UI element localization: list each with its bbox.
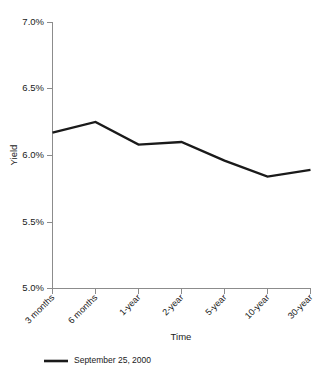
x-tick-label: 1-year [117,292,142,317]
y-tick-label: 6.5% [22,82,44,93]
plot-series-group [53,122,311,177]
y-tick-marks [47,23,53,289]
y-tick-label: 5.0% [22,282,44,293]
y-axis-title: Yield [8,145,19,166]
y-tick-labels: 7.0% 6.5% 6.0% 5.5% 5.0% [22,16,44,293]
x-tick-label: 10-year [243,292,272,321]
y-tick-label: 6.0% [22,149,44,160]
x-tick-labels: 3 months 6 months 1-year 2-year 5-year 1… [23,292,314,326]
y-tick-label: 7.0% [22,16,44,27]
legend: September 25, 2000 [44,355,151,365]
x-tick-label: 5-year [203,292,228,317]
y-axis: 7.0% 6.5% 6.0% 5.5% 5.0% Yield [8,16,53,293]
x-axis: 3 months 6 months 1-year 2-year 5-year 1… [23,289,314,343]
series-line-september-25-2000 [53,122,311,177]
x-axis-title: Time [171,331,192,342]
x-tick-label: 30-year [286,292,315,321]
x-tick-label: 3 months [23,292,57,326]
x-tick-label: 2-year [160,292,185,317]
yield-curve-chart: 7.0% 6.5% 6.0% 5.5% 5.0% Yield 3 months [0,0,324,376]
legend-label: September 25, 2000 [74,355,151,365]
chart-canvas: 7.0% 6.5% 6.0% 5.5% 5.0% Yield 3 months [0,0,324,376]
y-tick-label: 5.5% [22,216,44,227]
x-tick-label: 6 months [66,292,100,326]
